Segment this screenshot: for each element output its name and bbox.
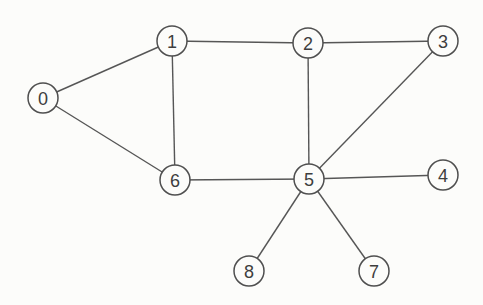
node-6-label: 6 bbox=[170, 171, 180, 191]
node-0: 0 bbox=[28, 83, 58, 113]
edge-2-3 bbox=[308, 41, 443, 43]
node-4-label: 4 bbox=[438, 166, 448, 186]
node-4: 4 bbox=[428, 160, 458, 190]
graph-figure: 012345678 bbox=[0, 0, 483, 305]
node-8-label: 8 bbox=[244, 262, 254, 282]
node-1-label: 1 bbox=[167, 32, 177, 52]
node-2-label: 2 bbox=[303, 34, 313, 54]
node-1: 1 bbox=[157, 26, 187, 56]
edge-4-5 bbox=[309, 175, 443, 179]
node-3-label: 3 bbox=[438, 32, 448, 52]
node-5: 5 bbox=[294, 164, 324, 194]
edges-layer bbox=[43, 41, 443, 271]
node-6: 6 bbox=[160, 165, 190, 195]
edge-5-8 bbox=[249, 179, 309, 271]
node-3: 3 bbox=[428, 26, 458, 56]
edge-2-5 bbox=[308, 43, 309, 179]
edge-1-2 bbox=[172, 41, 308, 43]
edge-3-5 bbox=[309, 41, 443, 179]
node-5-label: 5 bbox=[304, 170, 314, 190]
edge-5-6 bbox=[175, 179, 309, 180]
edge-5-7 bbox=[309, 179, 374, 271]
node-0-label: 0 bbox=[38, 89, 48, 109]
edge-0-6 bbox=[43, 98, 175, 180]
nodes-layer: 012345678 bbox=[28, 26, 458, 286]
node-7: 7 bbox=[359, 256, 389, 286]
graph-canvas: 012345678 bbox=[0, 0, 483, 305]
node-7-label: 7 bbox=[369, 262, 379, 282]
edge-1-6 bbox=[172, 41, 175, 180]
node-8: 8 bbox=[234, 256, 264, 286]
edge-0-1 bbox=[43, 41, 172, 98]
node-2: 2 bbox=[293, 28, 323, 58]
